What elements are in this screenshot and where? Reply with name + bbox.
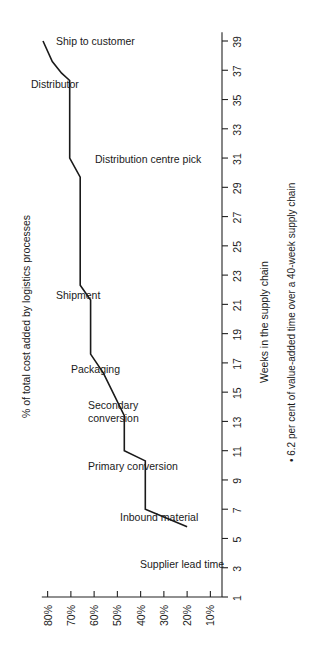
y-axis-ticks	[222, 41, 228, 597]
footnote-group: • 6.2 per cent of value-added time over …	[286, 183, 297, 462]
x-tick-label: 20%	[181, 605, 193, 626]
y-tick-label: 33	[231, 124, 243, 136]
data-point-label: Inbound material	[120, 511, 198, 523]
x-tick-label: 40%	[135, 605, 147, 626]
data-point-label: Distribution centre pick	[95, 153, 202, 165]
y-tick-label: 31	[231, 153, 243, 165]
x-tick-label: 70%	[65, 605, 77, 626]
x-tick-label: 60%	[88, 605, 100, 626]
data-point-labels: Ship to customerDistributorDistribution …	[31, 35, 224, 570]
x-axis-tick-labels: 80%70%60%50%40%30%20%10%	[42, 605, 217, 626]
y-tick-label: 1	[231, 595, 243, 601]
chart-svg: 80%70%60%50%40%30%20%10% 135791113151719…	[0, 0, 313, 652]
footnote: • 6.2 per cent of value-added time over …	[286, 183, 297, 462]
supply-chain-cost-time-chart: 80%70%60%50%40%30%20%10% 135791113151719…	[0, 0, 313, 652]
y-tick-label: 19	[231, 329, 243, 341]
data-point-label: Packaging	[71, 363, 120, 375]
y-tick-label: 9	[231, 478, 243, 484]
y-tick-label: 17	[231, 358, 243, 370]
y-axis-tick-labels: 13579111315171921232527293133353739	[231, 36, 243, 601]
y-tick-label: 29	[231, 182, 243, 194]
y-tick-label: 27	[231, 212, 243, 224]
y-axis-title: Weeks in the supply chain	[258, 261, 270, 383]
x-tick-label: 30%	[158, 605, 170, 626]
x-tick-label: 50%	[111, 605, 123, 626]
x-axis-title: % of total cost added by logistics proce…	[20, 215, 32, 418]
series-group	[43, 41, 187, 527]
data-point-label: Primary conversion	[88, 460, 178, 472]
x-tick-label: 80%	[42, 605, 54, 626]
y-tick-label: 21	[231, 299, 243, 311]
data-point-label: Supplier lead time	[140, 558, 224, 570]
y-tick-label: 5	[231, 536, 243, 542]
y-tick-label: 11	[231, 446, 243, 457]
y-tick-label: 3	[231, 566, 243, 572]
x-tick-label: 10%	[204, 605, 216, 626]
data-point-label: Secondaryconversion	[88, 399, 139, 424]
data-point-label: Ship to customer	[56, 35, 135, 47]
y-tick-label: 35	[231, 95, 243, 107]
y-tick-label: 23	[231, 270, 243, 282]
y-tick-label: 37	[231, 65, 243, 77]
y-tick-label: 7	[231, 507, 243, 513]
y-tick-label: 15	[231, 387, 243, 399]
data-point-label: Shipment	[56, 289, 100, 301]
x-axis-ticks	[48, 591, 211, 597]
data-point-label: Distributor	[31, 78, 79, 90]
y-tick-label: 25	[231, 241, 243, 253]
cost-time-step-line	[43, 41, 187, 527]
y-tick-label: 13	[231, 416, 243, 428]
y-tick-label: 39	[231, 36, 243, 48]
